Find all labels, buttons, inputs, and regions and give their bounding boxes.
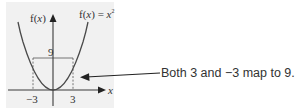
x-axis-label: x <box>107 84 113 96</box>
function-label: f(x) = x2 <box>79 8 114 21</box>
y-axis-label: f(x) <box>30 12 46 25</box>
y-tick-9: 9 <box>48 46 54 58</box>
x-tick-neg3: −3 <box>26 93 38 105</box>
parabola-diagram: f(x) f(x) = x2 9 x −3 3 Both 3 and −3 ma… <box>0 0 306 111</box>
x-tick-pos3: 3 <box>70 93 76 105</box>
callout-text: Both 3 and −3 map to 9. <box>161 66 295 80</box>
